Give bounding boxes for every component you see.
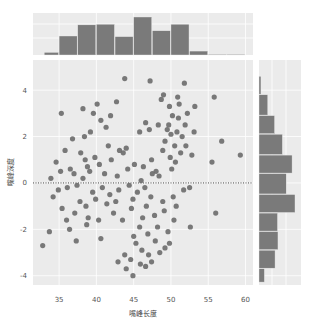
data-point — [80, 106, 85, 111]
y-tick-label: -2 — [20, 226, 27, 234]
data-point — [153, 169, 158, 174]
data-point — [162, 139, 167, 144]
histogram-bar — [259, 116, 275, 134]
data-point — [188, 224, 193, 229]
x-tick-label: 45 — [129, 296, 138, 304]
data-point — [85, 164, 90, 169]
data-point — [98, 118, 103, 123]
data-point — [124, 146, 129, 151]
histogram-bar — [134, 17, 152, 55]
data-point — [84, 222, 89, 227]
data-point — [176, 115, 181, 120]
data-point — [191, 129, 196, 134]
data-point — [92, 155, 97, 160]
data-point — [120, 217, 125, 222]
data-point — [178, 150, 183, 155]
marginal-y-histogram — [259, 60, 301, 285]
data-point — [135, 190, 140, 195]
data-point — [113, 199, 118, 204]
data-point — [144, 204, 149, 209]
data-point — [78, 150, 83, 155]
data-point — [168, 155, 173, 160]
data-point — [140, 215, 145, 220]
data-point — [145, 231, 150, 236]
data-point — [124, 266, 129, 271]
data-point — [131, 234, 136, 239]
data-point — [143, 264, 148, 269]
data-point — [104, 201, 109, 206]
data-point — [165, 229, 170, 234]
data-point — [141, 164, 146, 169]
data-point — [93, 197, 98, 202]
data-point — [167, 104, 172, 109]
scatter-plot-area — [33, 60, 253, 285]
data-point — [87, 169, 92, 174]
data-point — [156, 173, 161, 178]
y-tick-label: 4 — [23, 87, 28, 95]
data-point — [171, 217, 176, 222]
data-point — [170, 113, 175, 118]
histogram-bar — [227, 54, 245, 55]
data-point — [153, 238, 158, 243]
data-point — [157, 250, 162, 255]
data-point — [100, 185, 105, 190]
data-point — [160, 199, 165, 204]
histogram-bar — [190, 51, 208, 55]
data-point — [64, 217, 69, 222]
data-point — [169, 166, 174, 171]
data-point — [103, 125, 108, 130]
y-tick-label: 2 — [23, 133, 27, 141]
data-point — [70, 136, 75, 141]
histogram-bar — [259, 195, 295, 213]
data-point — [114, 99, 119, 104]
data-point — [67, 227, 72, 232]
x-tick-label: 60 — [241, 296, 250, 304]
data-point — [82, 134, 87, 139]
histogram-bar — [259, 232, 278, 250]
data-point — [109, 157, 114, 162]
data-point — [86, 215, 91, 220]
data-point — [95, 101, 100, 106]
data-point — [98, 236, 103, 241]
data-point — [174, 204, 179, 209]
histogram-bar — [259, 95, 268, 115]
histogram-bar — [259, 134, 282, 154]
data-point — [133, 241, 138, 246]
histogram-bar — [259, 76, 261, 94]
data-point — [183, 122, 188, 127]
data-point — [192, 104, 197, 109]
histogram-bar — [115, 37, 133, 55]
data-point — [90, 190, 95, 195]
data-point — [173, 159, 178, 164]
data-point — [108, 113, 113, 118]
data-point — [77, 199, 82, 204]
data-point — [160, 148, 165, 153]
data-point — [47, 229, 52, 234]
data-point — [65, 185, 70, 190]
data-point — [238, 153, 243, 158]
data-point — [97, 162, 102, 167]
data-point — [74, 183, 79, 188]
data-point — [177, 101, 182, 106]
data-point — [175, 95, 180, 100]
data-point — [209, 159, 214, 164]
histogram-bar — [59, 36, 77, 55]
data-point — [139, 178, 144, 183]
data-point — [59, 206, 64, 211]
histogram-bar — [78, 25, 96, 55]
data-point — [125, 166, 130, 171]
data-point — [213, 210, 218, 215]
x-tick-label: 35 — [55, 296, 64, 304]
data-point — [54, 159, 59, 164]
data-point — [147, 78, 152, 83]
data-point — [166, 122, 171, 127]
data-point — [83, 204, 88, 209]
data-point — [149, 259, 154, 264]
data-point — [171, 194, 176, 199]
histogram-bar — [259, 250, 275, 268]
data-point — [88, 129, 93, 134]
data-point — [102, 171, 107, 176]
histogram-bar — [208, 54, 226, 55]
data-point — [127, 183, 132, 188]
data-point — [62, 148, 67, 153]
